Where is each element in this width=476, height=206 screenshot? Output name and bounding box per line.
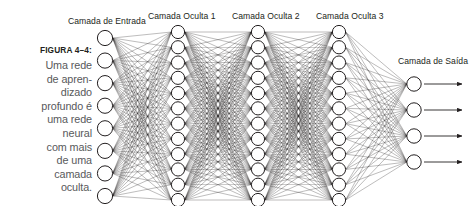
output-arrows [424,84,462,162]
network-node-hidden3 [332,71,345,84]
network-edge [113,32,172,38]
network-node-input [97,76,112,91]
network-node-hidden2 [251,71,264,84]
network-edge [346,136,407,169]
network-edge [346,162,407,200]
network-node-hidden3 [332,56,345,69]
network-node-hidden3 [332,193,345,206]
network-edge [113,47,172,83]
network-node-hidden1 [171,178,184,191]
network-node-hidden2 [251,132,264,145]
network-edge [113,151,172,185]
network-node-hidden3 [332,117,345,130]
network-node-hidden2 [251,102,264,115]
network-node-hidden3 [332,25,345,38]
network-node-hidden1 [171,71,184,84]
network-node-hidden3 [332,163,345,176]
network-node-hidden1 [171,148,184,161]
network-node-hidden1 [171,132,184,145]
network-edge [346,63,407,110]
network-edge [113,47,172,60]
network-node-hidden2 [251,56,264,69]
network-edge [113,139,172,196]
network-edge [346,93,407,162]
network-edge [346,32,407,84]
network-edge [346,78,407,136]
network-edge [346,110,407,200]
network-edge [113,47,172,128]
network-edge [113,38,172,63]
network-edge [113,38,172,47]
network-node-hidden2 [251,25,264,38]
network-node-hidden1 [171,102,184,115]
network-node-hidden2 [251,178,264,191]
network-edge [346,136,407,200]
network-node-hidden2 [251,41,264,54]
network-node-output [407,129,421,143]
network-edge [113,196,172,200]
network-node-hidden3 [332,86,345,99]
figure-container: FIGURA 4–4: Uma rede de apren- dizado pr… [0,0,476,206]
network-node-input [97,53,112,68]
network-node-input [97,188,112,203]
network-node-hidden1 [171,56,184,69]
network-edge [113,173,172,200]
network-node-hidden3 [332,178,345,191]
network-edge [346,63,407,162]
network-edge [113,83,172,200]
network-edge [346,78,407,110]
network-edge [113,139,172,174]
network-node-input [97,166,112,181]
network-node-hidden2 [251,148,264,161]
network-edge [346,78,407,162]
network-edge [113,47,172,173]
network-edge [346,136,407,139]
network-edge [113,106,172,109]
network-node-output [407,103,421,117]
network-node-output [407,77,421,91]
network-edge [346,32,407,136]
network-node-hidden1 [171,86,184,99]
network-node-hidden1 [171,193,184,206]
network-node-hidden2 [251,86,264,99]
network-node-hidden2 [251,163,264,176]
network-edge [346,108,407,162]
network-node-hidden3 [332,41,345,54]
network-edge [113,47,172,105]
network-node-output [407,155,421,169]
network-edge [113,38,172,108]
network-node-hidden3 [332,102,345,115]
network-node-hidden1 [171,41,184,54]
network-node-input [97,98,112,113]
network-edge [346,108,407,110]
network-edge [346,32,407,110]
network-edge [346,154,407,162]
network-node-input [97,143,112,158]
network-node-hidden3 [332,148,345,161]
network-edge [346,84,407,139]
network-edge [113,128,172,200]
network-edge [113,128,172,154]
network-edge [346,84,407,124]
network-node-hidden1 [171,25,184,38]
network-node-hidden2 [251,117,264,130]
network-node-input [97,30,112,45]
network-edge [113,185,172,196]
network-node-input [97,121,112,136]
network-node-hidden1 [171,163,184,176]
network-node-hidden1 [171,117,184,130]
network-node-hidden3 [332,132,345,145]
network-edge [346,162,407,169]
network-node-hidden2 [251,193,264,206]
neural-network-diagram [0,0,476,206]
